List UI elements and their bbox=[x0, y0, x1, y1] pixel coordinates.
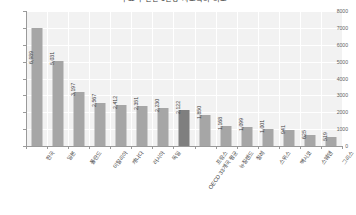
bar-value-label: 2,567 bbox=[91, 93, 97, 106]
bar-slot: 1,099 bbox=[237, 11, 258, 146]
bar[interactable] bbox=[178, 110, 189, 146]
bar-slot: 1,168 bbox=[216, 11, 237, 146]
bar[interactable] bbox=[73, 92, 84, 146]
bar-slot: 625 bbox=[300, 11, 321, 146]
bar-slot: 6,989 bbox=[26, 11, 47, 146]
bar-value-label: 1,099 bbox=[239, 118, 245, 131]
bar-value-label: 1,001 bbox=[260, 120, 266, 133]
bar-slot: 2,230 bbox=[152, 11, 173, 146]
x-axis-category-labels: 한국일본폴란드이탈리아캐나다러시아독일OECD 33개국 평균프랑스뉴질랜드칠레… bbox=[26, 149, 342, 211]
bar-series: 6,9895,0313,1972,5672,4122,3512,2302,122… bbox=[26, 11, 342, 146]
bar-value-label: 6,989 bbox=[28, 51, 34, 64]
x-axis-category-label: 그리스 bbox=[341, 149, 356, 166]
x-axis-line bbox=[26, 146, 343, 147]
bar-value-label: 2,230 bbox=[154, 99, 160, 112]
bar-slot: 941 bbox=[279, 11, 300, 146]
bar[interactable] bbox=[31, 28, 42, 146]
x-axis-category-label: 한국 bbox=[44, 149, 56, 162]
bar-value-label: 625 bbox=[302, 131, 308, 140]
x-axis-category-label: 캐나다 bbox=[130, 149, 145, 166]
bar[interactable] bbox=[94, 103, 105, 146]
bar-value-label: 941 bbox=[281, 125, 287, 134]
bar-value-label: 2,351 bbox=[133, 97, 139, 110]
x-axis-category-label: 스위스 bbox=[278, 149, 293, 166]
x-axis-category-label: 뉴질랜드 bbox=[238, 149, 256, 170]
bar-slot: 519 bbox=[321, 11, 342, 146]
bar-value-label: 1,168 bbox=[218, 117, 224, 130]
x-axis-category-label: 스웨덴 bbox=[320, 149, 335, 166]
bar-value-label: 2,122 bbox=[175, 101, 181, 114]
bar-slot: 2,122 bbox=[173, 11, 194, 146]
bar-slot: 2,351 bbox=[131, 11, 152, 146]
x-axis-category-label: 러시아 bbox=[151, 149, 166, 166]
bar-slot: 2,567 bbox=[89, 11, 110, 146]
bar-value-label: 2,412 bbox=[112, 96, 118, 109]
bar[interactable] bbox=[157, 108, 168, 146]
bar-value-label: 519 bbox=[323, 132, 329, 141]
bar-slot: 1,850 bbox=[195, 11, 216, 146]
x-axis-category-label: 독일 bbox=[170, 149, 182, 162]
x-axis-category-label: 폴란드 bbox=[88, 149, 103, 166]
bar[interactable] bbox=[52, 61, 63, 146]
x-axis-tick-mark bbox=[342, 146, 343, 149]
bar-slot: 5,031 bbox=[47, 11, 68, 146]
bar[interactable] bbox=[200, 115, 211, 146]
x-axis-category-label: 멕시코 bbox=[299, 149, 314, 166]
bar[interactable] bbox=[136, 106, 147, 146]
bar-slot: 2,412 bbox=[110, 11, 131, 146]
bar[interactable] bbox=[115, 105, 126, 146]
bar-slot: 1,001 bbox=[258, 11, 279, 146]
bar-value-label: 5,031 bbox=[49, 52, 55, 65]
chart-title: 주요국 연간 1인당 사교육비 비교 bbox=[0, 0, 348, 3]
x-axis-category-label: 이탈리아 bbox=[111, 149, 129, 170]
x-axis-category-label: 칠레 bbox=[254, 149, 266, 162]
bar-value-label: 1,850 bbox=[196, 106, 202, 119]
x-axis-category-label: 일본 bbox=[65, 149, 77, 162]
bar-value-label: 3,197 bbox=[70, 83, 76, 96]
bar-slot: 3,197 bbox=[68, 11, 89, 146]
